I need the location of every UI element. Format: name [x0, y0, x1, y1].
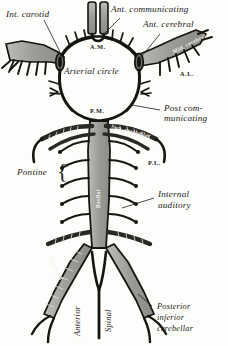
label-anterior: Anterior — [74, 306, 83, 336]
label-posterior-inferior-cerebellar-line1: Posterior — [157, 303, 190, 312]
label-internal-auditory-line2: auditory — [158, 201, 191, 211]
label-post-communicating-line2: municating — [164, 114, 207, 124]
label-abbr-pm: P.M. — [90, 108, 105, 115]
label-posterior-inferior-cerebellar-line3: cerebellar — [157, 325, 193, 334]
vessel-group-anterior-cerebral — [88, 2, 108, 41]
label-spinal: Spinal — [105, 309, 114, 332]
label-ant-cerebral: Ant. cerebral — [143, 20, 194, 30]
label-ant-communicating: Ant. communicating — [111, 5, 189, 15]
label-abbr-pl: P.L. — [148, 160, 161, 167]
label-pontine: Pontine — [17, 168, 47, 178]
label-arterial-circle: Arterial circle — [64, 67, 119, 77]
label-abbr-am: A.M. — [90, 44, 106, 51]
vessel-group-left-internal-carotid — [2, 41, 64, 75]
figure-canvas: Int. carotid Ant. communicating Ant. cer… — [0, 0, 228, 346]
label-abbr-al: A.L. — [180, 71, 194, 78]
label-internal-auditory-line1: Internal — [158, 190, 189, 200]
pontine-brace: { — [57, 160, 68, 182]
label-basilar: Basilar — [96, 189, 102, 208]
label-int-carotid: Int. carotid — [6, 10, 49, 20]
label-posterior-inferior-cerebellar-line2: inferior — [157, 314, 184, 323]
